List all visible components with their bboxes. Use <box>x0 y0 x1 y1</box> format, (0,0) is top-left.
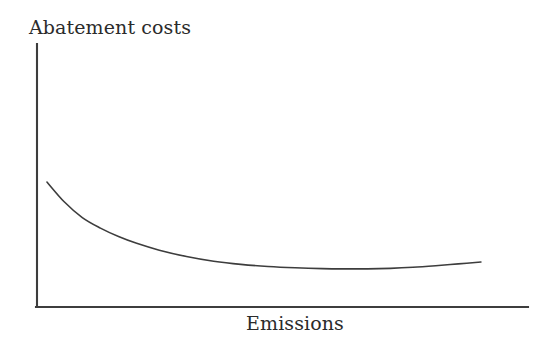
y-axis-label: Abatement costs <box>29 16 191 38</box>
x-axis-label: Emissions <box>0 312 554 334</box>
abatement-costs-chart: Abatement costs Emissions <box>0 0 554 344</box>
abatement-cost-curve <box>47 182 481 269</box>
chart-plot-area <box>0 0 554 344</box>
